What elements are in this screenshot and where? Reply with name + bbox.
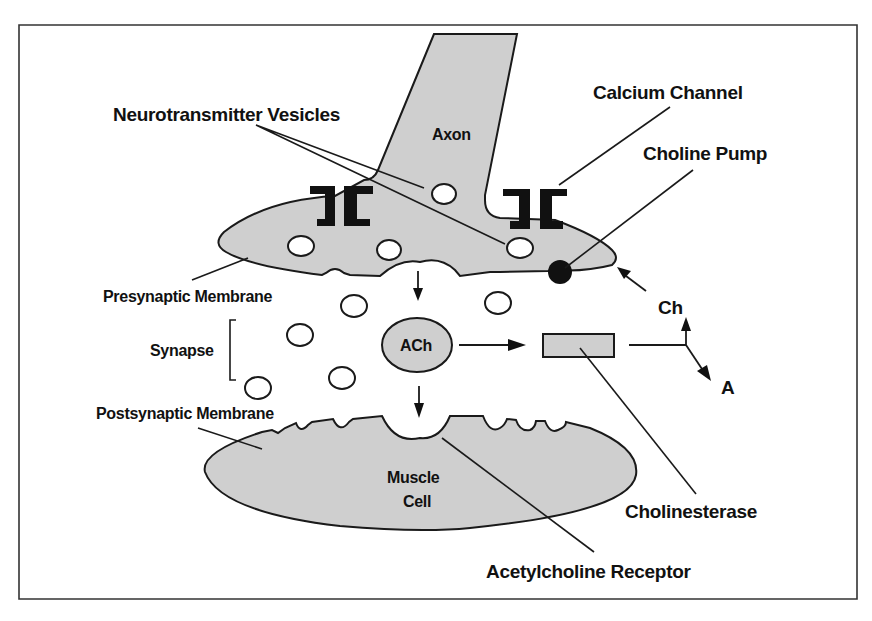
neuromuscular-junction-diagram: Axon Neurotransmitter Vesicles Calcium C… bbox=[0, 0, 872, 621]
choline-pump-leader-line bbox=[565, 170, 693, 268]
vesicle bbox=[507, 238, 533, 258]
hydrolysis-arrow bbox=[459, 339, 526, 351]
vesicle bbox=[288, 236, 314, 256]
cholinesterase-enzyme bbox=[543, 334, 614, 357]
presynaptic-membrane-label: Presynaptic Membrane bbox=[103, 288, 273, 305]
vesicle bbox=[287, 324, 313, 346]
calcium-channel-label: Calcium Channel bbox=[593, 82, 743, 103]
presynaptic-leader-line bbox=[192, 258, 248, 280]
vesicle bbox=[432, 184, 456, 204]
choline-product-label: Ch bbox=[658, 297, 683, 318]
axon-label: Axon bbox=[432, 126, 471, 143]
acetate-product-label: A bbox=[721, 377, 735, 398]
vesicle bbox=[329, 367, 355, 389]
vesicle bbox=[245, 377, 271, 399]
vesicle bbox=[485, 292, 511, 314]
acetylcholine-receptor-label: Acetylcholine Receptor bbox=[486, 561, 691, 582]
choline-pump-label: Choline Pump bbox=[643, 143, 767, 164]
muscle-cell-label-line1: Muscle bbox=[387, 469, 440, 486]
cholinesterase-label: Cholinesterase bbox=[625, 501, 757, 522]
postsynaptic-membrane-label: Postsynaptic Membrane bbox=[96, 405, 274, 422]
vesicle bbox=[377, 240, 401, 260]
ach-label: ACh bbox=[400, 337, 432, 354]
synapse-label: Synapse bbox=[150, 342, 214, 359]
products-split-arrow bbox=[629, 317, 711, 381]
neurotransmitter-vesicles-label: Neurotransmitter Vesicles bbox=[113, 104, 340, 125]
vesicle bbox=[341, 295, 367, 317]
presynaptic-terminal-shape bbox=[218, 34, 616, 276]
release-arrow bbox=[413, 271, 423, 301]
synapse-bracket bbox=[230, 320, 236, 380]
choline-pump bbox=[548, 260, 572, 284]
binding-arrow bbox=[414, 386, 424, 418]
muscle-cell-label-line2: Cell bbox=[403, 493, 431, 510]
choline-reuptake-arrow bbox=[617, 267, 646, 291]
